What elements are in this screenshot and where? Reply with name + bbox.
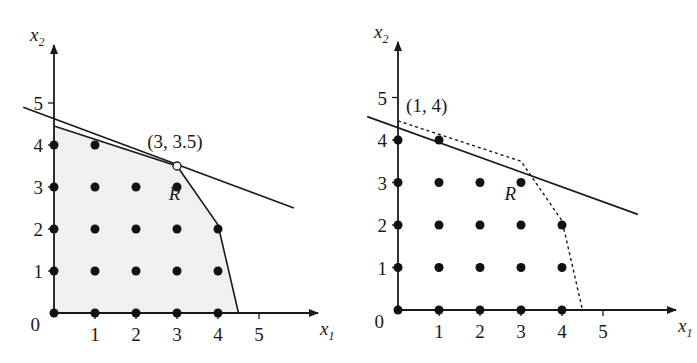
x1-axis-title: x1 [677, 315, 692, 340]
integer-point [517, 306, 526, 315]
x2-axis-title: x2 [373, 21, 388, 46]
integer-point [91, 225, 100, 234]
integer-point [173, 267, 182, 276]
integer-point [91, 267, 100, 276]
integer-point [435, 221, 444, 230]
x2-subscript: 2 [38, 35, 44, 49]
x1-axis-title: x1 [319, 318, 334, 343]
integer-point [394, 136, 403, 145]
objective-line [367, 117, 638, 215]
integer-point [214, 309, 223, 318]
integer-point [214, 267, 223, 276]
y-tick-label: 1 [378, 258, 388, 279]
x2-subscript: 2 [382, 32, 388, 46]
integer-point [132, 183, 141, 192]
y-tick-label: 4 [378, 130, 388, 151]
integer-point [435, 136, 444, 145]
origin-label: 0 [375, 311, 385, 332]
integer-point [132, 267, 141, 276]
integer-point [394, 263, 403, 272]
integer-point [435, 263, 444, 272]
optimal-lp-point [173, 162, 181, 170]
integer-point [476, 263, 485, 272]
integer-point [50, 267, 59, 276]
point-annotation: (3, 3.5) [147, 131, 202, 153]
x-tick-label: 2 [475, 321, 485, 342]
integer-point [558, 306, 567, 315]
integer-point [173, 309, 182, 318]
x-tick-label: 3 [172, 324, 182, 345]
x2-axis-title: x2 [29, 24, 44, 49]
integer-point [435, 178, 444, 187]
x-tick-label: 4 [557, 321, 567, 342]
diagram-canvas: 12345123450x1x2(3, 3.5)R 12345123450x1x2… [0, 0, 697, 363]
integer-point [50, 309, 59, 318]
integer-point [50, 183, 59, 192]
integer-point [394, 178, 403, 187]
relaxation-boundary-dashed [398, 121, 583, 310]
y-tick-label: 5 [34, 93, 44, 114]
x-tick-label: 1 [434, 321, 444, 342]
integer-point [50, 225, 59, 234]
region-label: R [504, 183, 517, 204]
x-tick-label: 1 [90, 324, 100, 345]
integer-point [517, 178, 526, 187]
integer-point [558, 221, 567, 230]
integer-point [132, 309, 141, 318]
x-tick-label: 2 [131, 324, 141, 345]
x-tick-label: 5 [254, 324, 264, 345]
integer-point [91, 309, 100, 318]
integer-point [91, 141, 100, 150]
x-tick-label: 3 [516, 321, 526, 342]
point-annotation: (1, 4) [406, 95, 447, 117]
left-plot-panel: 12345123450x1x2(3, 3.5)R [23, 24, 334, 345]
y-tick-label: 1 [34, 261, 44, 282]
y-tick-label: 5 [378, 88, 388, 109]
y-tick-label: 3 [378, 173, 388, 194]
y-tick-label: 2 [34, 219, 44, 240]
integer-point [435, 306, 444, 315]
y-tick-label: 4 [34, 135, 44, 156]
x-tick-label: 4 [213, 324, 223, 345]
integer-point [517, 221, 526, 230]
right-plot-panel: 12345123450x1x2(1, 4)R [367, 21, 692, 342]
integer-point [132, 225, 141, 234]
integer-point [476, 306, 485, 315]
integer-point [476, 178, 485, 187]
x1-subscript: 1 [328, 329, 334, 343]
feasible-region-fill [54, 126, 239, 313]
origin-label: 0 [31, 314, 41, 335]
integer-point [91, 183, 100, 192]
x-tick-label: 5 [598, 321, 608, 342]
integer-point [50, 141, 59, 150]
region-label: R [168, 183, 181, 204]
integer-point [394, 306, 403, 315]
integer-point [558, 263, 567, 272]
integer-point [517, 263, 526, 272]
integer-point [476, 221, 485, 230]
integer-point [214, 225, 223, 234]
x1-subscript: 1 [686, 326, 692, 340]
integer-point [173, 225, 182, 234]
integer-point [394, 221, 403, 230]
y-tick-label: 2 [378, 215, 388, 236]
y-tick-label: 3 [34, 177, 44, 198]
